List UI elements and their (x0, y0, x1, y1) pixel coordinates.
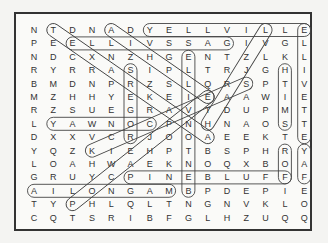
grid-cell[interactable]: L (27, 118, 41, 130)
grid-cell[interactable]: U (259, 212, 273, 224)
grid-cell[interactable]: N (181, 198, 195, 210)
grid-cell[interactable]: A (297, 158, 311, 170)
grid-cell[interactable]: D (220, 185, 234, 197)
grid-cell[interactable]: O (278, 158, 292, 170)
grid-cell[interactable]: E (181, 51, 195, 63)
grid-cell[interactable]: E (124, 145, 138, 157)
grid-cell[interactable]: E (162, 91, 176, 103)
grid-cell[interactable]: L (220, 171, 234, 183)
grid-cell[interactable]: H (220, 212, 234, 224)
grid-cell[interactable]: I (278, 185, 292, 197)
grid-cell[interactable]: V (297, 78, 311, 90)
grid-cell[interactable]: L (181, 64, 195, 76)
grid-cell[interactable]: O (181, 131, 195, 143)
grid-cell[interactable]: R (124, 131, 138, 143)
grid-cell[interactable]: Q (46, 145, 60, 157)
grid-cell[interactable]: T (201, 64, 215, 76)
grid-cell[interactable]: E (220, 131, 234, 143)
grid-cell[interactable]: J (143, 131, 157, 143)
grid-cell[interactable]: I (104, 145, 118, 157)
grid-cell[interactable]: I (46, 185, 60, 197)
grid-cell[interactable]: E (297, 24, 311, 36)
grid-cell[interactable]: T (201, 104, 215, 116)
grid-cell[interactable]: I (143, 171, 157, 183)
grid-cell[interactable]: A (220, 91, 234, 103)
grid-cell[interactable]: G (201, 198, 215, 210)
grid-cell[interactable]: S (66, 104, 80, 116)
grid-cell[interactable]: T (181, 145, 195, 157)
grid-cell[interactable]: Q (220, 158, 234, 170)
grid-cell[interactable]: D (46, 51, 60, 63)
grid-cell[interactable]: O (46, 158, 60, 170)
grid-cell[interactable]: N (181, 158, 195, 170)
grid-cell[interactable]: L (66, 185, 80, 197)
grid-cell[interactable]: A (66, 158, 80, 170)
grid-cell[interactable]: F (162, 212, 176, 224)
grid-cell[interactable]: N (181, 118, 195, 130)
grid-cell[interactable]: R (220, 78, 234, 90)
grid-cell[interactable]: N (104, 185, 118, 197)
grid-cell[interactable]: S (239, 78, 253, 90)
grid-cell[interactable]: N (27, 51, 41, 63)
grid-cell[interactable]: N (27, 24, 41, 36)
grid-cell[interactable]: B (259, 158, 273, 170)
grid-cell[interactable]: C (66, 51, 80, 63)
grid-cell[interactable]: R (27, 104, 41, 116)
grid-cell[interactable]: B (27, 78, 41, 90)
grid-cell[interactable]: P (201, 185, 215, 197)
grid-cell[interactable]: Z (66, 145, 80, 157)
grid-cell[interactable]: Q (46, 212, 60, 224)
grid-cell[interactable]: O (201, 158, 215, 170)
grid-cell[interactable]: T (220, 51, 234, 63)
grid-cell[interactable]: G (124, 185, 138, 197)
grid-cell[interactable]: W (104, 158, 118, 170)
grid-cell[interactable]: H (143, 145, 157, 157)
grid-cell[interactable]: S (278, 118, 292, 130)
grid-cell[interactable]: E (201, 91, 215, 103)
grid-cell[interactable]: X (66, 131, 80, 143)
grid-cell[interactable]: D (66, 78, 80, 90)
grid-cell[interactable]: A (66, 118, 80, 130)
grid-cell[interactable]: V (143, 37, 157, 49)
grid-cell[interactable]: T (278, 78, 292, 90)
grid-cell[interactable]: A (201, 37, 215, 49)
grid-cell[interactable]: I (124, 37, 138, 49)
grid-cell[interactable]: Y (85, 171, 99, 183)
grid-cell[interactable]: L (104, 37, 118, 49)
grid-cell[interactable]: R (124, 78, 138, 90)
grid-cell[interactable]: G (162, 51, 176, 63)
grid-cell[interactable]: A (104, 24, 118, 36)
grid-cell[interactable]: W (85, 118, 99, 130)
grid-cell[interactable]: X (46, 131, 60, 143)
grid-cell[interactable]: V (85, 131, 99, 143)
grid-cell[interactable]: P (66, 198, 80, 210)
grid-cell[interactable]: B (201, 145, 215, 157)
grid-cell[interactable]: S (220, 145, 234, 157)
grid-cell[interactable]: A (104, 64, 118, 76)
grid-cell[interactable]: X (85, 51, 99, 63)
grid-cell[interactable]: P (239, 145, 253, 157)
grid-cell[interactable]: Y (46, 64, 60, 76)
grid-cell[interactable]: Z (239, 51, 253, 63)
grid-cell[interactable]: E (297, 185, 311, 197)
grid-cell[interactable]: R (27, 64, 41, 76)
grid-cell[interactable]: U (239, 104, 253, 116)
grid-cell[interactable]: P (259, 185, 273, 197)
grid-cell[interactable]: M (46, 78, 60, 90)
grid-cell[interactable]: P (27, 37, 41, 49)
grid-cell[interactable]: Q (201, 78, 215, 90)
grid-cell[interactable]: D (124, 24, 138, 36)
grid-cell[interactable]: T (27, 198, 41, 210)
grid-cell[interactable]: L (85, 37, 99, 49)
grid-cell[interactable]: Q (124, 198, 138, 210)
grid-cell[interactable]: S (162, 37, 176, 49)
grid-cell[interactable]: G (278, 37, 292, 49)
grid-cell[interactable]: K (259, 198, 273, 210)
grid-cell[interactable]: P (259, 104, 273, 116)
grid-cell[interactable]: E (104, 104, 118, 116)
grid-cell[interactable]: P (104, 78, 118, 90)
grid-cell[interactable]: Z (239, 212, 253, 224)
grid-cell[interactable]: X (239, 158, 253, 170)
grid-cell[interactable]: L (181, 78, 195, 90)
grid-cell[interactable]: Z (143, 78, 157, 90)
